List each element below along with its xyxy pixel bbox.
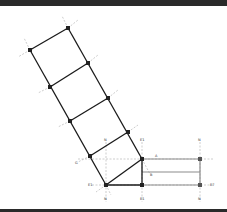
svg-text:A: A: [155, 154, 158, 158]
primary-members: [30, 28, 142, 185]
node-P: [104, 183, 108, 187]
svg-text:N: N: [104, 197, 107, 201]
structural-diagram: N E1 N N E1 N A B E7 G E1: [0, 0, 227, 212]
svg-text:B: B: [150, 173, 153, 177]
node-D: [86, 61, 90, 65]
node-Q: [140, 157, 144, 161]
svg-text:N: N: [104, 138, 107, 142]
node-U: [198, 183, 202, 187]
svg-text:E1: E1: [140, 138, 144, 142]
node-T: [198, 157, 202, 161]
node-C: [48, 85, 52, 89]
node-B: [66, 26, 70, 30]
svg-text:N: N: [198, 138, 201, 142]
node-A: [28, 48, 32, 52]
node-H: [126, 130, 130, 134]
svg-text:E1: E1: [140, 197, 144, 201]
labels: N E1 N N E1 N A B E7 G E1: [75, 138, 214, 201]
svg-text:E7: E7: [210, 183, 214, 187]
svg-text:N: N: [198, 197, 201, 201]
node-S: [140, 183, 144, 187]
node-E: [68, 119, 72, 123]
svg-text:E1: E1: [88, 183, 92, 187]
node-G: [88, 154, 92, 158]
nodes: [28, 26, 202, 187]
svg-text:G: G: [75, 161, 78, 165]
node-F: [106, 96, 110, 100]
bottom-bar: [0, 209, 227, 212]
secondary-members: [142, 159, 200, 185]
guide-lines: [18, 16, 213, 202]
